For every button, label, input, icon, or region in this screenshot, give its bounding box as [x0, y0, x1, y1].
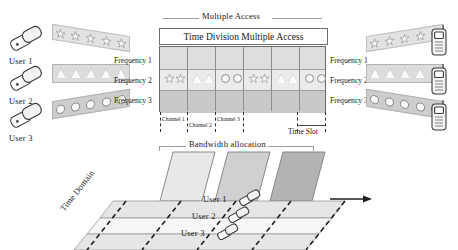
star-symbol-icon	[71, 30, 80, 40]
star-symbol-icon	[102, 35, 111, 45]
flip-phone-icon	[8, 105, 48, 131]
frequency-label-right-1: Frequency 1	[330, 56, 368, 65]
bandwidth-rule-right	[268, 146, 313, 147]
flip-phone-icon	[216, 225, 242, 242]
header-rule-right	[272, 18, 322, 19]
star-symbol-icon	[416, 30, 425, 40]
triangle-symbol-icon	[204, 74, 214, 83]
bar-phone-icon	[428, 99, 450, 133]
bandwidth-block-user-3	[270, 152, 325, 201]
time-slot-label: Time Slot	[288, 127, 318, 136]
frequency-label-right-2: Frequency 2	[330, 76, 368, 85]
user-label-bottom-3: User 3	[181, 228, 205, 238]
bar-phone-icon	[428, 24, 450, 58]
circle-symbol-icon	[102, 96, 111, 106]
frequency-label-left-1: Frequency 1	[114, 56, 152, 65]
ribbon-left-stars	[52, 24, 130, 52]
star-symbol-icon	[117, 38, 126, 48]
star-symbol-icon	[260, 74, 269, 83]
user-label-left-1: User 1	[9, 56, 33, 66]
circle-symbol-icon	[86, 99, 95, 109]
circle-symbol-icon	[56, 104, 65, 114]
star-symbol-icon	[56, 28, 65, 38]
triangle-symbol-icon	[385, 69, 395, 78]
circle-symbol-icon	[416, 101, 425, 111]
bandwidth-rule-left	[159, 146, 186, 147]
channel-tick	[215, 112, 216, 132]
grid-column-divider	[187, 47, 188, 111]
circle-symbol-icon	[71, 101, 80, 111]
triangle-symbol-icon	[400, 69, 410, 78]
channel-label-3: Channel 3	[217, 116, 240, 122]
channel-tick	[243, 112, 244, 132]
triangle-symbol-icon	[101, 69, 111, 78]
circle-symbol-icon	[233, 74, 242, 83]
tdma-diagram: Multiple Access Time Division Multiple A…	[0, 0, 458, 250]
user-label-bottom-1: User 1	[203, 194, 227, 204]
circle-symbol-icon	[370, 94, 379, 104]
user-label-bottom-2: User 2	[192, 211, 216, 221]
header-rule-left	[163, 18, 199, 19]
tdma-title: Time Division Multiple Access	[184, 31, 304, 42]
channel-tick	[160, 112, 161, 132]
star-symbol-icon	[249, 74, 258, 83]
grid-column-divider	[215, 47, 216, 111]
user-label-left-3: User 3	[9, 133, 33, 143]
tdma-grid	[159, 46, 326, 112]
circle-symbol-icon	[305, 74, 314, 83]
triangle-symbol-icon	[71, 69, 81, 78]
triangle-symbol-icon	[415, 69, 425, 78]
triangle-symbol-icon	[276, 74, 286, 83]
circle-symbol-icon	[385, 96, 394, 106]
star-symbol-icon	[86, 33, 95, 43]
multiple-access-title: Multiple Access	[202, 11, 260, 21]
grid-column-divider	[243, 47, 244, 111]
grid-column-divider	[271, 47, 272, 111]
circle-symbol-icon	[400, 99, 409, 109]
circle-symbol-icon	[317, 74, 326, 83]
circle-symbol-icon	[221, 74, 230, 83]
triangle-symbol-icon	[370, 69, 380, 78]
flip-phone-icon	[8, 68, 48, 94]
channel-label-1: Channel 1	[162, 116, 185, 122]
flip-phone-icon	[227, 208, 253, 225]
grid-column-divider	[299, 47, 300, 111]
time-slot-tick	[325, 112, 326, 132]
triangle-symbol-icon	[288, 74, 298, 83]
star-symbol-icon	[165, 74, 174, 83]
frequency-label-right-3: Frequency 3	[330, 96, 368, 105]
bar-phone-icon	[428, 63, 450, 97]
flip-phone-icon	[238, 191, 264, 208]
tdma-title-box: Time Division Multiple Access	[159, 28, 328, 45]
channel-tick	[187, 112, 188, 132]
time-slot-measure-line	[297, 125, 325, 126]
triangle-symbol-icon	[86, 69, 96, 78]
channel-label-2: Channel 2	[189, 122, 212, 128]
triangle-symbol-icon	[192, 74, 202, 83]
frequency-label-left-3: Frequency 3	[114, 96, 152, 105]
star-symbol-icon	[385, 35, 394, 45]
star-symbol-icon	[400, 33, 409, 43]
flip-phone-icon	[8, 28, 48, 54]
frequency-label-left-2: Frequency 2	[114, 76, 152, 85]
star-symbol-icon	[176, 74, 185, 83]
star-symbol-icon	[370, 38, 379, 48]
triangle-symbol-icon	[56, 69, 66, 78]
